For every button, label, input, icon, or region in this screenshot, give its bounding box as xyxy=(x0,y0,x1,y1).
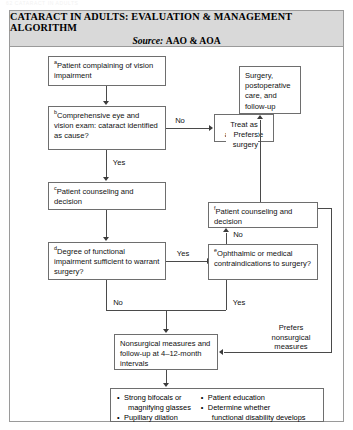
page-running-header: 62 CATARACT IN ADULTS xyxy=(0,0,353,9)
edge-d-no-arrow xyxy=(163,329,169,333)
node-surgery-postop: Surgery, postoperative care, and follow-… xyxy=(239,66,301,114)
edge-f-right-out xyxy=(318,208,332,209)
node-d-label: Degree of functional impairment sufficie… xyxy=(54,247,159,276)
node-d-functional-impairment: dDegree of functional impairment suffici… xyxy=(48,242,166,280)
edge-c-to-d-arrow xyxy=(103,237,109,241)
figure-frame: CATARACT IN ADULTS: EVALUATION & MANAGEM… xyxy=(9,10,344,422)
edge-b-yes-line xyxy=(106,150,107,178)
figure-title: CATARACT IN ADULTS: EVALUATION & MANAGEM… xyxy=(10,11,343,33)
list-item: Pupillary dilation xyxy=(117,413,191,423)
edge-b-no-line xyxy=(166,128,210,129)
edge-prefers-surgery-arrow xyxy=(257,115,263,119)
edge-e-yes-hline xyxy=(166,310,226,311)
node-a-patient-complaining: aPatient complaining of vision impairmen… xyxy=(48,56,166,86)
edge-prefers-nonsurgical-vline xyxy=(331,208,332,352)
figure-source: Source: AAO & AOA xyxy=(132,35,220,46)
bullets-left-column: Strong bifocals or magnifying glasses Pu… xyxy=(117,393,191,417)
bullet-left-0-cont: magnifying glasses xyxy=(124,403,191,413)
edge-b-yes-arrow xyxy=(103,177,109,181)
edge-label-d-yes: Yes xyxy=(174,249,192,259)
source-label: Source: xyxy=(132,35,163,46)
bullets-right-column: Patient education Determine whether func… xyxy=(201,393,306,417)
edge-prefers-nonsurgical-hline xyxy=(224,352,332,353)
bullet-right-1-text: Determine whether xyxy=(208,403,270,412)
node-e-contraindications: eOphthalmic or medical contraindications… xyxy=(208,244,318,280)
edge-d-no-vline xyxy=(106,280,107,310)
edge-label-prefers-nonsurgical: Prefers nonsurgical measures xyxy=(260,323,322,352)
edge-label-b-no: No xyxy=(172,116,188,126)
edge-label-b-yes: Yes xyxy=(110,158,128,168)
node-f-patient-counseling: fPatient counseling and decision xyxy=(208,202,318,228)
source-value: AAO & AOA xyxy=(166,35,221,46)
flowchart-canvas: aPatient complaining of vision impairmen… xyxy=(10,48,345,422)
edge-d-no-down xyxy=(166,310,167,330)
list-item: Determine whether functional disability … xyxy=(201,403,306,423)
edge-label-prefers-nonsurgical-l1: Prefers xyxy=(260,323,322,333)
figure-title-band: CATARACT IN ADULTS: EVALUATION & MANAGEM… xyxy=(10,11,343,47)
edge-a-to-b-arrow xyxy=(103,101,109,105)
edge-prefers-surgery-line xyxy=(260,120,261,202)
edge-c-to-d-line xyxy=(106,210,107,238)
edge-label-prefers-surgery-l2: surgery xyxy=(226,140,258,150)
node-b-label: Comprehensive eye and vision exam: catar… xyxy=(54,111,158,140)
bullet-right-1-cont: functional disability develops xyxy=(208,413,306,423)
edge-nonsurgical-to-bullets-arrow xyxy=(163,383,169,387)
node-e-label: Ophthalmic or medical contraindications … xyxy=(214,249,311,268)
edge-e-no-arrow xyxy=(223,228,229,232)
node-c-patient-counseling: cPatient counseling and decision xyxy=(48,182,166,210)
node-f-label: Patient counseling and decision xyxy=(214,207,292,226)
node-b-comprehensive-exam: bComprehensive eye and vision exam: cata… xyxy=(48,106,166,150)
edge-b-no-arrow xyxy=(209,125,213,131)
edge-prefers-nonsurgical-arrow xyxy=(219,349,223,355)
edge-label-prefers-surgery-l1: Prefers xyxy=(226,130,258,140)
edge-a-to-b-line xyxy=(106,86,107,102)
node-nonsurgical-label: Nonsurgical measures and follow-up at 4–… xyxy=(120,339,210,368)
bullet-left-0-text: Strong bifocals or xyxy=(124,393,182,402)
list-item: Patient education xyxy=(201,393,306,403)
node-surgery-label: Surgery, postoperative care, and follow-… xyxy=(245,71,291,111)
edge-label-e-yes: Yes xyxy=(230,298,248,308)
edge-label-prefers-surgery: Prefers surgery xyxy=(226,130,258,149)
bullet-right-0-text: Patient education xyxy=(208,393,265,402)
bullet-left-1-text: Pupillary dilation xyxy=(124,413,178,422)
node-c-label: Patient counseling and decision xyxy=(54,187,134,206)
edge-e-yes-vline xyxy=(226,280,227,310)
edge-nonsurgical-to-bullets-line xyxy=(166,370,167,384)
edge-d-no-hline xyxy=(106,310,166,311)
node-a-label: Patient complaining of vision impairment xyxy=(54,61,153,80)
edge-label-prefers-nonsurgical-l2: nonsurgical xyxy=(260,333,322,343)
list-item: Strong bifocals or magnifying glasses xyxy=(117,393,191,413)
edge-label-e-no: No xyxy=(230,230,246,240)
node-nonsurgical-options: Strong bifocals or magnifying glasses Pu… xyxy=(110,388,324,422)
edge-e-no-line xyxy=(226,233,227,244)
node-nonsurgical-measures: Nonsurgical measures and follow-up at 4–… xyxy=(114,334,218,370)
edge-d-yes-line xyxy=(166,261,208,262)
edge-label-d-no: No xyxy=(110,298,126,308)
edge-label-prefers-nonsurgical-l3: measures xyxy=(260,342,322,352)
